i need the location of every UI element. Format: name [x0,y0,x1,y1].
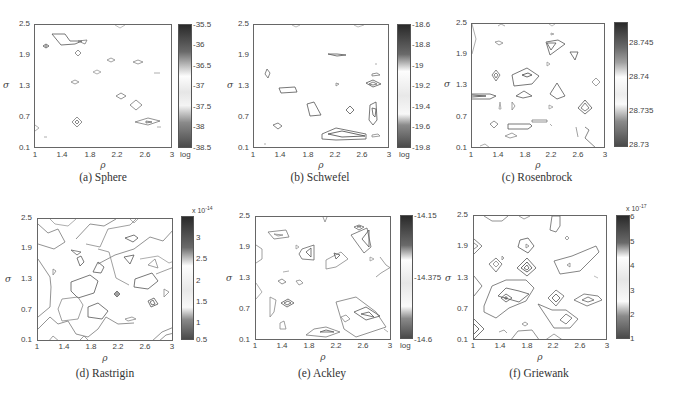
y-tick: 0.7 [8,112,30,121]
contour-plot-rosenbrock [471,23,605,148]
y-axis-label: σ [3,80,9,90]
colorbar-tick: -14.6 [414,335,432,344]
y-tick: 1.9 [445,49,467,58]
colorbar-exponent: x 10-17 [626,203,646,212]
x-tick: 2.6 [568,150,588,159]
colorbar-tick: -18.8 [412,40,430,49]
y-tick: 2.5 [228,211,250,220]
x-tick: 1.4 [490,341,510,350]
y-tick: 1.9 [227,50,249,59]
colorbar-tick: 5 [630,237,634,246]
x-tick: 3 [597,341,617,350]
y-tick: 0.7 [445,112,467,121]
colorbar-rastrigin [181,216,194,340]
caption-rosenbrock: (c) Rosenbrock [437,171,637,183]
x-tick: 2.6 [135,150,155,159]
x-tick: 1 [461,150,481,159]
x-tick: 1 [463,341,483,350]
colorbar-tick: 3 [630,286,634,295]
x-tick: 2.6 [135,342,155,351]
x-tick: 2.2 [541,150,561,159]
colorbar-tick: 1 [196,318,200,327]
colorbar-tick: 1 [630,334,634,343]
x-axis-label: ρ [314,160,328,170]
y-axis-label: σ [226,273,232,283]
colorbar-tick: -19.2 [412,81,430,90]
x-tick: 1.8 [298,150,318,159]
x-tick: 2.2 [108,342,128,351]
caption-griewank: (f) Griewank [439,367,639,379]
x-tick: 2.6 [570,341,590,350]
colorbar-tick: -35.5 [193,20,211,29]
x-tick: 2.6 [352,150,372,159]
colorbar-tick: -19.4 [412,102,430,111]
y-tick: 2.5 [8,19,30,28]
colorbar-exponent-power: -14 [205,205,212,211]
x-tick: 2.2 [326,341,346,350]
colorbar-exponent-base: x 10 [192,207,205,214]
x-tick: 2.2 [107,150,127,159]
colorbar-unit: log [400,341,411,350]
colorbar-tick: -14.15 [414,211,437,220]
x-tick: 1.4 [272,341,292,350]
colorbar-unit: log [399,150,410,159]
x-tick: 1 [243,150,263,159]
y-axis-label: σ [445,273,451,283]
contour-plot-rastrigin [37,218,173,341]
caption-schwefel: (b) Schwefel [220,171,420,183]
y-tick: 2.5 [446,210,468,219]
x-tick: 2.2 [325,150,345,159]
colorbar-tick: -38 [193,122,205,131]
caption-ackley: (e) Ackley [222,367,422,379]
colorbar-tick: -19.6 [412,122,430,131]
colorbar-tick: 2 [196,276,200,285]
colorbar-tick: 28.73 [629,140,649,149]
colorbar-tick: 3 [196,233,200,242]
y-tick: 0.7 [10,305,32,314]
x-tick: 1 [27,342,47,351]
x-tick: 1.4 [54,342,74,351]
y-tick: 1.9 [446,241,468,250]
x-tick: 1.8 [80,150,100,159]
x-tick: 1.8 [81,342,101,351]
colorbar-exponent: x 10-14 [192,205,212,214]
colorbar-unit: log [180,150,191,159]
y-tick: 2.5 [445,18,467,27]
colorbar-tick: 4 [630,261,634,270]
x-tick: 3 [379,150,399,159]
caption-rastrigin: (d) Rastrigin [5,367,205,379]
colorbar-tick: 28.745 [629,38,653,47]
y-tick: 2.5 [227,19,249,28]
x-tick: 1.8 [515,150,535,159]
colorbar-griewank [616,215,630,339]
x-axis-label: ρ [531,160,545,170]
x-tick: 3 [380,341,400,350]
y-tick: 1.9 [10,243,32,252]
colorbar-tick: -19.8 [412,143,430,152]
x-axis-label: ρ [533,352,547,362]
x-tick: 3 [162,150,182,159]
colorbar-tick: 1.5 [196,297,207,306]
y-tick: 1.3 [10,274,32,283]
x-tick: 1.4 [270,150,290,159]
colorbar-tick: -18.6 [412,20,430,29]
contour-plot-griewank [473,215,607,340]
x-axis-label: ρ [316,352,330,362]
x-tick: 3 [595,150,615,159]
x-tick: 3 [162,342,182,351]
colorbar-ackley [400,215,413,339]
colorbar-sphere [178,24,192,148]
x-tick: 1.4 [52,150,72,159]
colorbar-tick: -37 [193,81,205,90]
colorbar-tick: 0.5 [196,335,207,344]
colorbar-tick: -36.5 [193,61,211,70]
colorbar-tick: -36 [193,40,205,49]
x-tick: 2.2 [543,341,563,350]
y-tick: 0.7 [446,304,468,313]
y-tick: 2.5 [10,213,32,222]
colorbar-tick: 28.74 [629,72,649,81]
colorbar-rosenbrock [614,22,628,147]
colorbar-tick: -38.5 [193,143,211,152]
colorbar-tick: -37.5 [193,102,211,111]
colorbar-schwefel [397,24,411,148]
